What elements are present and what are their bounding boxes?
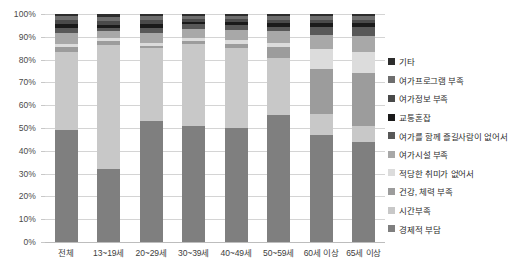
bar-segment[interactable]	[97, 169, 120, 242]
bar-segment[interactable]	[140, 46, 163, 48]
legend-item[interactable]: 여가프로그램 부족	[388, 71, 528, 90]
bar-segment[interactable]	[140, 16, 163, 19]
bar-segment[interactable]	[352, 27, 375, 36]
bar-segment[interactable]	[310, 16, 333, 19]
bar-segment[interactable]	[97, 45, 120, 169]
bar-segment[interactable]	[267, 43, 290, 48]
bar-segment[interactable]	[267, 14, 290, 16]
bar-segment[interactable]	[182, 38, 205, 41]
bar-segment[interactable]	[97, 17, 120, 20]
bar-segment[interactable]	[352, 14, 375, 16]
legend-item[interactable]: 적당한 취미가 없어서	[388, 164, 528, 183]
bar-segment[interactable]	[267, 16, 290, 19]
bar-segment[interactable]	[225, 19, 248, 22]
bar-segment[interactable]	[352, 16, 375, 19]
bar-segment[interactable]	[267, 47, 290, 58]
bar-segment[interactable]	[55, 14, 78, 16]
x-axis: 전체13~19세20~29세30~39세40~49세50~59세60세 이상65…	[45, 246, 385, 266]
bar-segment[interactable]	[310, 69, 333, 115]
bar-segment[interactable]	[310, 27, 333, 35]
bar-group[interactable]	[140, 14, 163, 242]
bar-group[interactable]	[267, 14, 290, 242]
y-axis: 0%10%20%30%40%50%60%70%80%90%100%	[0, 14, 42, 242]
bar-segment[interactable]	[55, 33, 78, 43]
bar-segment[interactable]	[55, 28, 78, 34]
legend-item[interactable]: 경제적 부담	[388, 219, 528, 238]
bar-segment[interactable]	[225, 14, 248, 16]
bar-segment[interactable]	[310, 23, 333, 26]
legend-item[interactable]: 건강, 체력 부족	[388, 182, 528, 201]
bar-segment[interactable]	[310, 135, 333, 242]
bar-segment[interactable]	[225, 48, 248, 128]
bar-segment[interactable]	[140, 14, 163, 16]
bar-segment[interactable]	[182, 44, 205, 126]
bar-segment[interactable]	[267, 27, 290, 32]
bar-segment[interactable]	[140, 121, 163, 242]
bar-segment[interactable]	[310, 49, 333, 68]
bar-group[interactable]	[182, 14, 205, 242]
bar-segment[interactable]	[225, 40, 248, 43]
bar-segment[interactable]	[55, 44, 78, 47]
bar-segment[interactable]	[97, 25, 120, 27]
bar-segment[interactable]	[352, 36, 375, 52]
legend-item[interactable]: 시간부족	[388, 201, 528, 220]
bar-segment[interactable]	[352, 52, 375, 74]
bar-segment[interactable]	[55, 24, 78, 27]
bar-segment[interactable]	[352, 20, 375, 23]
legend-item[interactable]: 기타	[388, 52, 528, 71]
bar-segment[interactable]	[182, 22, 205, 24]
bar-segment[interactable]	[310, 35, 333, 50]
bar-group[interactable]	[55, 14, 78, 242]
bar-segment[interactable]	[182, 24, 205, 29]
bar-group[interactable]	[310, 14, 333, 242]
bar-segment[interactable]	[140, 28, 163, 34]
bar-segment[interactable]	[225, 25, 248, 30]
legend-item[interactable]: 여가를 함께 즐길사람이 없어서	[388, 126, 528, 145]
bar-segment[interactable]	[55, 52, 78, 131]
bar-segment[interactable]	[225, 16, 248, 18]
bar-segment[interactable]	[182, 16, 205, 18]
bar-segment[interactable]	[267, 31, 290, 42]
bar-segment[interactable]	[97, 38, 120, 41]
bar-segment[interactable]	[225, 22, 248, 25]
bar-segment[interactable]	[225, 30, 248, 40]
bar-segment[interactable]	[140, 48, 163, 121]
bar-segment[interactable]	[55, 130, 78, 242]
bar-segment[interactable]	[182, 29, 205, 38]
legend-item[interactable]: 여가시설 부족	[388, 145, 528, 164]
bar-segment[interactable]	[97, 41, 120, 44]
bar-segment[interactable]	[310, 114, 333, 135]
legend-item[interactable]: 여가정보 부족	[388, 89, 528, 108]
bar-segment[interactable]	[97, 21, 120, 26]
bar-group[interactable]	[225, 14, 248, 242]
bar-segment[interactable]	[97, 31, 120, 38]
bar-segment[interactable]	[182, 14, 205, 16]
bar-segment[interactable]	[182, 19, 205, 22]
bar-segment[interactable]	[140, 20, 163, 25]
bar-segment[interactable]	[267, 23, 290, 26]
bar-segment[interactable]	[140, 43, 163, 46]
bar-segment[interactable]	[55, 16, 78, 19]
bar-segment[interactable]	[352, 142, 375, 242]
bar-segment[interactable]	[97, 28, 120, 31]
bar-segment[interactable]	[352, 23, 375, 26]
bar-segment[interactable]	[140, 33, 163, 42]
bar-segment[interactable]	[310, 20, 333, 23]
bar-segment[interactable]	[267, 20, 290, 23]
bar-group[interactable]	[352, 14, 375, 242]
bar-segment[interactable]	[310, 14, 333, 16]
bar-segment[interactable]	[140, 24, 163, 27]
bar-segment[interactable]	[55, 20, 78, 25]
bar-segment[interactable]	[55, 47, 78, 52]
bar-segment[interactable]	[182, 126, 205, 242]
bar-segment[interactable]	[352, 126, 375, 142]
bar-segment[interactable]	[225, 128, 248, 242]
bar-segment[interactable]	[97, 14, 120, 17]
bar-segment[interactable]	[267, 58, 290, 115]
bar-segment[interactable]	[225, 44, 248, 49]
bar-segment[interactable]	[182, 41, 205, 43]
bar-group[interactable]	[97, 14, 120, 242]
bar-segment[interactable]	[267, 115, 290, 242]
bar-segment[interactable]	[352, 73, 375, 125]
legend-item[interactable]: 교통혼잡	[388, 108, 528, 127]
